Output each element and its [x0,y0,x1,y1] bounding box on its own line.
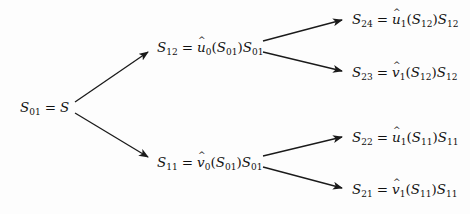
argument-subscript: 11 [420,189,431,199]
function-subscript: 1 [401,137,407,147]
equals-sign: = [178,154,197,170]
hat-function: v [392,64,400,80]
argument-subscript: 01 [225,162,236,172]
function-subscript: 0 [205,162,211,172]
function-subscript: 0 [206,47,212,57]
arrow-s12-to-s24 [263,20,342,41]
hat-function: v [392,181,400,197]
node-s21: S21=v1(S11)S11 [352,181,457,197]
argument-subscript: 12 [420,72,431,82]
equals-sign: = [373,64,392,80]
multiplier: S [437,64,446,80]
node-s12: S12=u0(S01)S01 [157,39,263,55]
function-subscript: 1 [400,72,406,82]
argument: S [216,154,225,170]
function-subscript: 1 [400,189,406,199]
equals-sign: = [373,11,392,27]
arrow-s01-to-s12 [75,52,148,102]
node-lhs-subscript: 24 [361,19,372,29]
node-s23: S23=v1(S12)S12 [352,64,457,80]
node-s01: S01=S [20,99,69,115]
equals-sign: = [373,181,392,197]
arrow-s11-to-s21 [263,167,342,188]
binomial-tree-diagram: S01=S S12=u0(S01)S01 S11=v0(S01)S01 S24=… [0,0,470,214]
multiplier: S [437,181,446,197]
argument-subscript: 11 [421,137,432,147]
multiplier-subscript: 12 [447,19,458,29]
node-lhs: S [157,154,166,170]
multiplier: S [438,11,447,27]
node-lhs-subscript: 21 [361,189,372,199]
arrow-s12-to-s23 [263,52,342,71]
multiplier: S [243,39,252,55]
argument: S [217,39,226,55]
node-lhs: S [157,39,166,55]
multiplier: S [438,129,447,145]
node-lhs-subscript: 11 [166,162,177,172]
node-lhs: S [352,64,361,80]
equals-sign: = [178,39,197,55]
node-lhs-subscript: 22 [361,137,372,147]
node-s24: S24=u1(S12)S12 [352,11,458,27]
equals-sign: = [41,99,60,115]
node-lhs-subscript: 01 [29,107,40,117]
argument-subscript: 01 [226,47,237,57]
multiplier-subscript: 01 [252,47,263,57]
argument-subscript: 12 [421,19,432,29]
arrow-s11-to-s22 [263,137,342,156]
hat-function: u [197,39,206,55]
hat-function: u [392,129,401,145]
arrow-s01-to-s11 [75,113,148,157]
function-subscript: 1 [401,19,407,29]
node-lhs: S [352,11,361,27]
node-s11: S11=v0(S01)S01 [157,154,262,170]
hat-function: u [392,11,401,27]
node-lhs: S [20,99,29,115]
argument: S [412,11,421,27]
multiplier-subscript: 12 [446,72,457,82]
node-s22: S22=u1(S11)S11 [352,129,458,145]
node-lhs: S [352,181,361,197]
equals-sign: = [373,129,392,145]
node-lhs-subscript: 23 [361,72,372,82]
node-lhs: S [352,129,361,145]
node-lhs-subscript: 12 [166,47,177,57]
argument: S [412,129,421,145]
argument: S [411,64,420,80]
multiplier-subscript: 01 [251,162,262,172]
argument: S [411,181,420,197]
multiplier: S [242,154,251,170]
node-rhs: S [60,99,69,115]
hat-function: v [197,154,205,170]
multiplier-subscript: 11 [446,189,457,199]
multiplier-subscript: 11 [447,137,458,147]
